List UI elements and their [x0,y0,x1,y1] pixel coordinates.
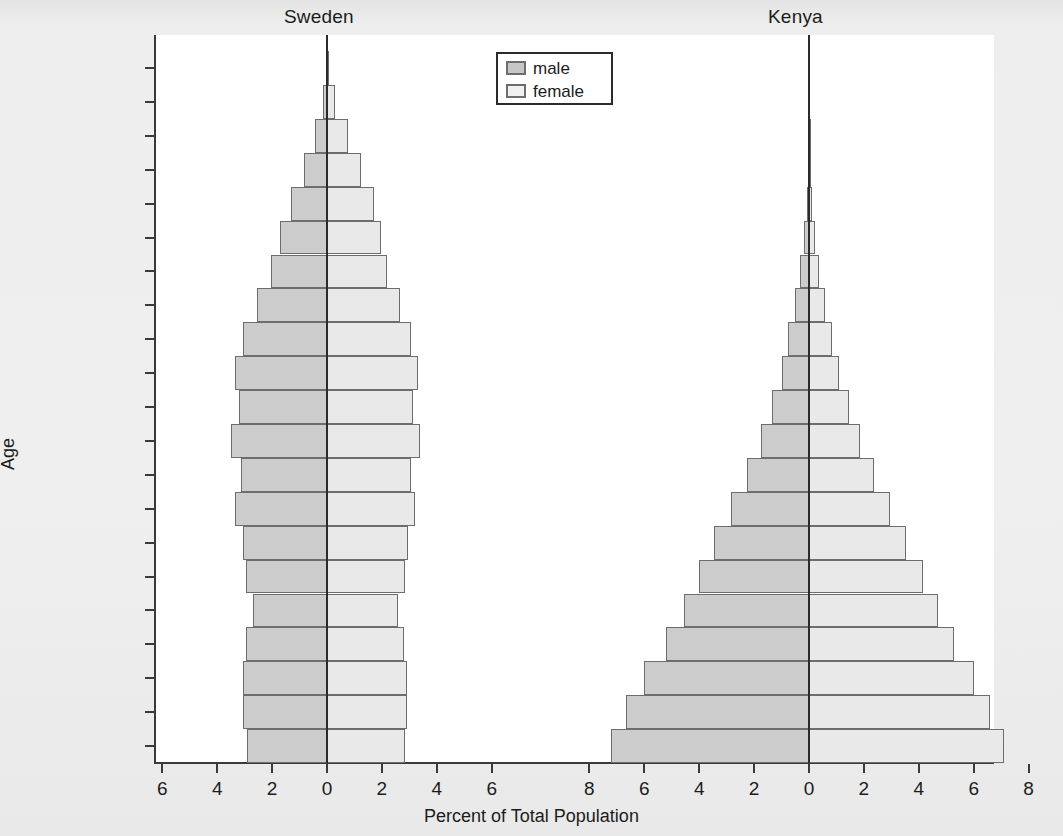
y-tick-mark [145,474,154,476]
y-tick-mark [145,745,154,747]
legend-label-male: male [533,60,570,77]
bar-female [809,390,849,424]
bar-male [247,729,327,763]
bar-female [327,390,413,424]
bar-male [243,695,327,729]
bar-female [809,729,1004,763]
bar-female [809,288,825,322]
y-tick-mark [145,67,154,69]
y-tick-mark [145,677,154,679]
y-tick-mark [145,135,154,137]
x-tick-mark [491,764,493,773]
panel-title-sweden: Sweden [284,6,354,28]
bar-male [241,458,327,492]
y-tick-mark [145,101,154,103]
bar-female [327,526,408,560]
bar-male [239,390,327,424]
bar-female [327,322,411,356]
bar-male [684,594,809,628]
bar-female [327,288,400,322]
bar-male [772,390,809,424]
bar-male [243,526,327,560]
x-tick-label: 0 [804,778,815,800]
bar-male [253,594,327,628]
bar-female [327,221,381,255]
x-tick-mark [698,764,700,773]
bar-female [327,187,374,221]
x-tick-label: 4 [212,778,223,800]
bar-female [327,560,405,594]
x-tick-label: 2 [859,778,870,800]
bar-male [231,424,327,458]
bar-female [809,424,860,458]
bar-male [304,153,327,187]
legend-item-female: female [506,80,584,102]
x-tick-label: 8 [584,778,595,800]
bar-male [271,255,327,289]
x-tick-mark [271,764,273,773]
x-tick-label: 6 [486,778,497,800]
bar-female [809,458,874,492]
x-tick-mark [381,764,383,773]
bar-male [246,560,327,594]
x-tick-label: 0 [322,778,333,800]
legend: male female [496,52,613,105]
y-tick-mark [145,609,154,611]
x-tick-label: 4 [432,778,443,800]
x-tick-label: 2 [377,778,388,800]
y-tick-mark [145,643,154,645]
y-tick-mark [145,203,154,205]
bar-male [611,729,809,763]
bar-male [644,661,809,695]
bar-female [327,85,335,119]
bar-male [280,221,327,255]
y-tick-mark [145,270,154,272]
x-tick-label: 6 [639,778,650,800]
bar-female [327,356,418,390]
bar-female [809,322,832,356]
legend-label-female: female [533,83,584,100]
y-tick-mark [145,304,154,306]
x-tick-mark [326,764,328,773]
bar-female [809,661,974,695]
bar-female [327,492,415,526]
bar-female [327,424,420,458]
bar-male [243,661,327,695]
y-tick-mark [145,406,154,408]
bar-female [809,560,923,594]
bar-female [809,255,819,289]
bar-female [327,255,387,289]
y-tick-mark [145,440,154,442]
x-tick-label: 8 [1023,778,1034,800]
bar-male [699,560,809,594]
y-tick-mark [145,338,154,340]
x-tick-label: 2 [749,778,760,800]
bar-male [626,695,809,729]
y-tick-mark [145,372,154,374]
bar-female [327,729,405,763]
zero-reference-line [326,35,328,763]
bar-male [782,356,809,390]
bar-male [747,458,809,492]
bar-male [235,492,327,526]
bar-female [809,356,839,390]
x-tick-mark [643,764,645,773]
x-tick-mark [863,764,865,773]
x-tick-label: 4 [694,778,705,800]
x-tick-mark [436,764,438,773]
y-tick-mark [145,542,154,544]
x-tick-mark [918,764,920,773]
bar-female [327,153,361,187]
x-tick-mark [161,764,163,773]
x-tick-label: 6 [968,778,979,800]
y-tick-mark [145,169,154,171]
x-tick-mark [753,764,755,773]
x-axis-title: Percent of Total Population [0,806,1063,827]
y-tick-mark [145,711,154,713]
bar-male [731,492,809,526]
x-tick-mark [973,764,975,773]
panel-title-kenya: Kenya [768,6,823,28]
x-tick-mark [216,764,218,773]
bar-female [327,661,407,695]
bar-female [327,594,398,628]
